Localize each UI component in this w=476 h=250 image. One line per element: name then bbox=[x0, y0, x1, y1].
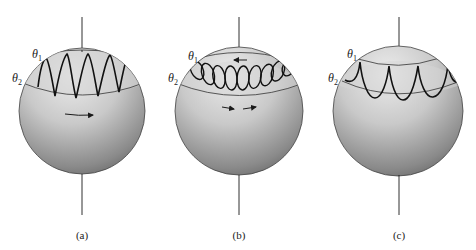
theta1-label: θ1 bbox=[32, 47, 42, 63]
caption-c: (c) bbox=[393, 229, 406, 242]
theta2-label: θ2 bbox=[328, 71, 338, 87]
theta1-label: θ1 bbox=[188, 49, 198, 65]
panel-a: θ1 θ2 (a) bbox=[12, 17, 146, 242]
theta2-label: θ2 bbox=[12, 71, 22, 87]
panel-b: θ1 θ2 (b) bbox=[168, 17, 304, 242]
figure-svg: θ1 θ2 (a) θ1 θ2 bbox=[0, 0, 476, 250]
caption-b: (b) bbox=[233, 229, 246, 242]
caption-a: (a) bbox=[76, 229, 89, 242]
panel-c: θ1 θ2 (c) bbox=[328, 17, 464, 242]
theta2-label: θ2 bbox=[168, 71, 178, 87]
theta1-label: θ1 bbox=[347, 47, 357, 63]
figure-stage: θ1 θ2 (a) θ1 θ2 bbox=[0, 0, 476, 250]
